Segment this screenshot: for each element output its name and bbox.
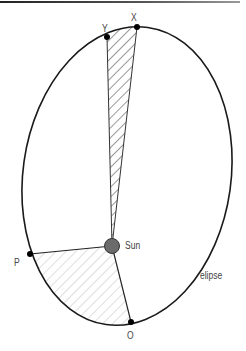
label-x: X — [131, 12, 137, 23]
point-y-marker — [104, 34, 110, 40]
label-p: P — [14, 257, 20, 268]
point-p-marker — [27, 251, 33, 257]
label-ellipse: elipse — [200, 270, 222, 281]
swept-area-xy — [107, 22, 140, 246]
kepler-diagram: X Y P O Sun elipse — [0, 0, 246, 351]
label-y: Y — [102, 23, 108, 34]
orbit-svg — [0, 0, 246, 351]
label-o: O — [127, 330, 134, 341]
point-x-marker — [134, 24, 140, 30]
label-sun: Sun — [125, 240, 140, 251]
point-o-marker — [128, 319, 134, 325]
sun-icon — [105, 239, 120, 254]
